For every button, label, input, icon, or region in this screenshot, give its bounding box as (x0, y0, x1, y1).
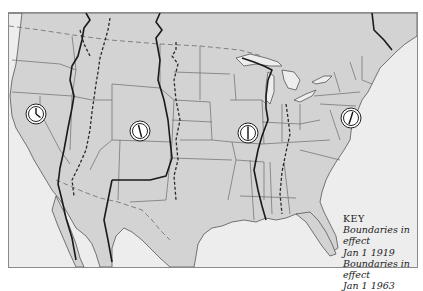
clock-icon-central (238, 123, 258, 143)
clock-icon-pacific (26, 104, 46, 124)
key-entry-1919-line1: Boundaries in effect (343, 224, 423, 246)
key-entry-1963-line1: Boundaries in effect (343, 258, 423, 280)
clock-icon-eastern (341, 108, 361, 128)
clock-icon-mountain (130, 121, 150, 141)
map-key: KEY Boundaries in effect Jan 1 1919 Boun… (343, 213, 423, 291)
key-title: KEY (343, 213, 423, 224)
key-entry-1919-line2: Jan 1 1919 (343, 247, 423, 258)
key-entry-1963-line2: Jan 1 1963 (343, 280, 423, 291)
